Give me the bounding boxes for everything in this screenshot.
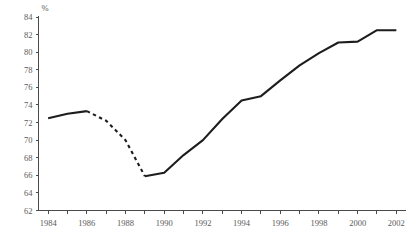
x-tick-label: 1990 bbox=[156, 218, 173, 228]
y-tick-label: 68 bbox=[24, 153, 33, 163]
y-tick-label: 74 bbox=[24, 100, 33, 110]
series-line-segment-solid bbox=[145, 30, 396, 176]
x-tick-label: 1998 bbox=[310, 218, 327, 228]
data-series bbox=[48, 30, 396, 176]
x-tick-label: 1992 bbox=[194, 218, 211, 228]
series-line-segment-solid bbox=[48, 111, 87, 118]
y-tick-label: 64 bbox=[24, 188, 33, 198]
y-tick-label: 76 bbox=[24, 82, 33, 92]
y-tick-label: 66 bbox=[24, 170, 33, 180]
x-tick-label: 1996 bbox=[272, 218, 289, 228]
y-tick-label: 80 bbox=[24, 47, 33, 57]
y-tick-label: 62 bbox=[24, 206, 33, 216]
y-axis-unit-label: % bbox=[41, 3, 48, 13]
y-tick-label: 84 bbox=[24, 12, 33, 22]
series-line-segment-dashed bbox=[87, 111, 145, 176]
x-tick-label: 1986 bbox=[78, 218, 95, 228]
y-tick-label: 82 bbox=[24, 30, 33, 40]
y-tick-label: 72 bbox=[24, 118, 33, 128]
x-tick-label: 2002 bbox=[388, 218, 405, 228]
y-tick-label: 78 bbox=[24, 65, 33, 75]
x-tick-label: 2000 bbox=[349, 218, 366, 228]
y-tick-label: 70 bbox=[24, 135, 33, 145]
x-tick-label: 1984 bbox=[40, 218, 58, 228]
x-tick-label: 1994 bbox=[233, 218, 251, 228]
chart-canvas: 626466687072747678808284 198419861988199… bbox=[0, 0, 413, 236]
x-tick-label: 1988 bbox=[117, 218, 134, 228]
line-chart: 626466687072747678808284 198419861988199… bbox=[0, 0, 413, 236]
x-axis: 1984198619881990199219941996199820002002 bbox=[39, 211, 407, 228]
y-axis: 626466687072747678808284 bbox=[24, 12, 39, 216]
